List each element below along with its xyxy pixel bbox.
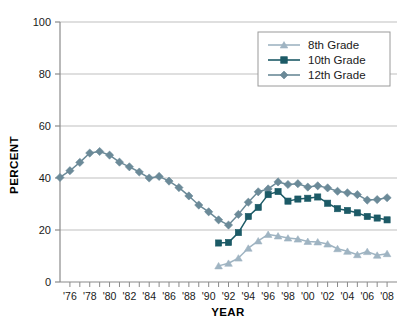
data-point-diamond (314, 182, 322, 190)
x-tick-label: '76 (63, 290, 77, 302)
chart-container: 020406080100 '76'78'80'82'84'86'88'90'92… (0, 0, 418, 323)
x-tick-label: '90 (202, 290, 216, 302)
data-point-triangle (334, 245, 342, 251)
y-tick-label: 80 (39, 68, 51, 80)
x-tick-label: '86 (162, 290, 176, 302)
x-axis-title: YEAR (211, 306, 245, 318)
data-point-diamond (284, 180, 292, 188)
y-axis (55, 22, 60, 282)
y-axis-title: PERCENT (8, 136, 20, 194)
x-tick-label: '94 (241, 290, 255, 302)
data-point-square (215, 240, 221, 246)
series-layer (56, 147, 391, 269)
x-tick-label: '04 (341, 290, 355, 302)
data-point-diamond (373, 195, 381, 203)
data-point-triangle (225, 260, 233, 266)
x-tick-label: '78 (83, 290, 97, 302)
x-tick-label: '02 (321, 290, 335, 302)
x-tick-label: '98 (281, 290, 295, 302)
data-point-square (285, 198, 291, 204)
data-point-diamond (155, 172, 163, 180)
data-point-diamond (363, 196, 371, 204)
data-point-square (364, 213, 370, 219)
data-point-square (245, 213, 251, 219)
data-point-square (255, 204, 261, 210)
x-tick-label: '06 (360, 290, 374, 302)
data-point-diamond (353, 191, 361, 199)
data-point-square (325, 200, 331, 206)
series-8th-grade (215, 231, 391, 269)
series-12th-grade (56, 147, 391, 229)
x-tick-labels: '76'78'80'82'84'86'88'90'92'94'96'98'00'… (63, 290, 394, 302)
data-point-square (384, 217, 390, 223)
y-tick-labels: 020406080100 (33, 16, 51, 288)
data-point-diamond (294, 180, 302, 188)
data-point-diamond (135, 168, 143, 176)
x-tick-label: '00 (301, 290, 315, 302)
x-tick-label: '88 (182, 290, 196, 302)
line-chart: 020406080100 '76'78'80'82'84'86'88'90'92… (0, 0, 418, 323)
data-point-square (225, 239, 231, 245)
data-point-square (235, 230, 241, 236)
data-point-diamond (383, 194, 391, 202)
data-point-square (265, 192, 271, 198)
data-point-diamond (96, 147, 104, 155)
y-tick-label: 60 (39, 120, 51, 132)
series-10th-grade (215, 188, 390, 246)
x-tick-label: '84 (142, 290, 156, 302)
data-point-square (275, 188, 281, 194)
series-line (219, 234, 388, 265)
x-tick-label: '96 (261, 290, 275, 302)
y-tick-label: 20 (39, 224, 51, 236)
data-point-diamond (333, 187, 341, 195)
y-tick-label: 100 (33, 16, 51, 28)
data-point-square (354, 210, 360, 216)
data-point-square (281, 57, 288, 64)
x-tick-label: '80 (103, 290, 117, 302)
data-point-square (334, 206, 340, 212)
data-point-square (315, 194, 321, 200)
data-point-diamond (56, 173, 64, 181)
x-tick-label: '82 (123, 290, 137, 302)
series-line (219, 192, 388, 243)
x-axis (60, 282, 397, 287)
data-point-diamond (125, 163, 133, 171)
x-tick-label: '92 (222, 290, 236, 302)
legend-label: 10th Grade (308, 54, 366, 66)
data-point-square (305, 195, 311, 201)
legend-label: 12th Grade (308, 69, 366, 81)
y-tick-label: 40 (39, 172, 51, 184)
data-point-square (344, 207, 350, 213)
data-point-diamond (304, 183, 312, 191)
x-tick-label: '08 (380, 290, 394, 302)
data-point-diamond (145, 174, 153, 182)
legend-label: 8th Grade (308, 39, 359, 51)
data-point-triangle (363, 248, 371, 254)
legend: 8th Grade10th Grade12th Grade (258, 32, 390, 86)
data-point-square (295, 196, 301, 202)
data-point-diamond (343, 189, 351, 197)
data-point-square (374, 215, 380, 221)
data-point-diamond (324, 184, 332, 192)
y-tick-label: 0 (45, 276, 51, 288)
